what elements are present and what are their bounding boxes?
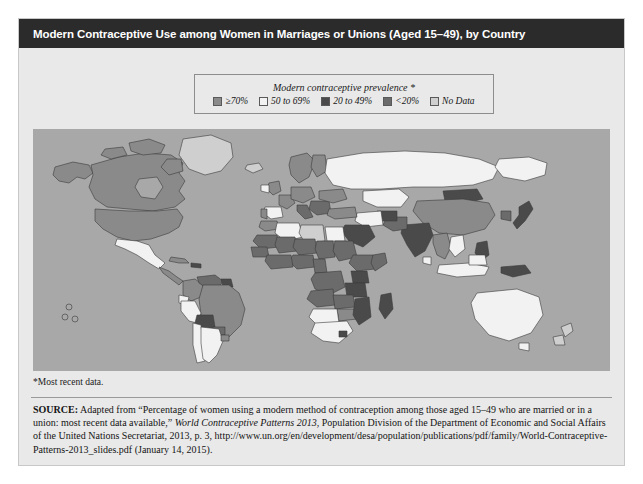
country-borneo bbox=[469, 255, 487, 265]
divider-rule bbox=[31, 397, 612, 398]
map-footnote: *Most recent data. bbox=[33, 377, 103, 387]
legend-item-label: ≥70% bbox=[225, 96, 248, 106]
legend-item-20-49[interactable]: 20 to 49% bbox=[321, 96, 372, 106]
island-marker-3 bbox=[72, 316, 78, 322]
legend-swatch-icon bbox=[259, 97, 268, 106]
legend-item-label: 20 to 49% bbox=[333, 96, 372, 106]
page-title: Modern Contraceptive Use among Women in … bbox=[19, 28, 525, 40]
figure-page: Modern Contraceptive Use among Women in … bbox=[0, 0, 643, 484]
island-marker-1 bbox=[66, 304, 72, 310]
figure-title-bar: Modern Contraceptive Use among Women in … bbox=[19, 19, 624, 48]
source-note: SOURCE: Adapted from “Percentage of wome… bbox=[33, 403, 613, 456]
country-uruguay bbox=[221, 335, 229, 341]
country-korea bbox=[501, 211, 511, 221]
country-turkey bbox=[327, 207, 357, 219]
country-zambia bbox=[333, 295, 355, 309]
country-ghana-ivory bbox=[265, 255, 293, 269]
country-chad bbox=[315, 241, 335, 259]
country-kenya bbox=[351, 271, 369, 283]
legend-item-70-plus[interactable]: ≥70% bbox=[213, 96, 248, 106]
island-marker-2 bbox=[62, 314, 68, 320]
legend-swatch-icon bbox=[383, 97, 392, 106]
legend-item-50-69[interactable]: 50 to 69% bbox=[259, 96, 310, 106]
country-egypt bbox=[325, 227, 345, 241]
world-choropleth-map bbox=[33, 129, 610, 371]
country-hispaniola bbox=[191, 263, 201, 268]
figure-card: Modern Contraceptive Use among Women in … bbox=[18, 18, 625, 466]
country-portugal bbox=[261, 209, 267, 219]
country-senegal-guinea bbox=[251, 247, 269, 257]
country-lesotho bbox=[339, 331, 347, 337]
world-map-svg bbox=[33, 129, 610, 371]
legend-item-label: <20% bbox=[395, 96, 419, 106]
legend-item-label: 50 to 69% bbox=[271, 96, 310, 106]
country-cameroon bbox=[313, 259, 327, 273]
legend-item-under-20[interactable]: <20% bbox=[383, 96, 419, 106]
legend-swatch-icon bbox=[430, 97, 439, 106]
legend-item-label: No Data bbox=[442, 96, 474, 106]
map-legend: Modern contraceptive prevalence * ≥70% 5… bbox=[194, 74, 494, 114]
legend-items: ≥70% 50 to 69% 20 to 49% <20% No Data bbox=[213, 96, 474, 106]
source-label: SOURCE: bbox=[33, 404, 78, 415]
legend-swatch-icon bbox=[213, 97, 222, 106]
legend-title: Modern contraceptive prevalence * bbox=[273, 82, 415, 93]
source-publication-title: World Contraceptive Patterns 2013 bbox=[175, 417, 317, 428]
country-new-zealand-south bbox=[553, 335, 565, 345]
legend-item-no-data[interactable]: No Data bbox=[430, 96, 474, 106]
legend-swatch-icon bbox=[321, 97, 330, 106]
